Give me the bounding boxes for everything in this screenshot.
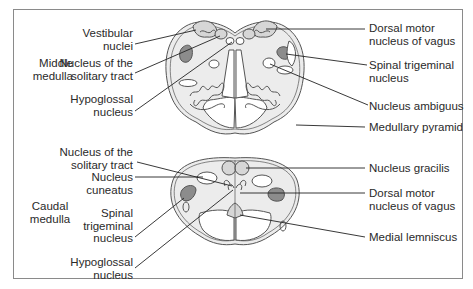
label-nucleus-gracilis: Nucleus gracilis — [369, 162, 450, 175]
nucleus-cuneatus-right — [252, 175, 272, 187]
label-nucleus-ambiguus: Nucleus ambiguus — [369, 100, 464, 113]
label-vestibular-nuclei: Vestibular nuclei — [82, 27, 133, 52]
dorsal-motor-nucleus-vagus-caudal-right — [268, 188, 284, 201]
middle-medulla-outline — [166, 22, 304, 134]
label-hypoglossal-nucleus-caudal: Hypoglossal nucleus — [70, 256, 133, 281]
label-dorsal-motor-nucleus-vagus-caudal: Dorsal motor nucleus of vagus — [369, 187, 455, 212]
solitary-tract-nucleus-right — [243, 29, 255, 39]
label-nucleus-solitary-tract-middle: Nucleus of the solitary tract — [59, 57, 133, 82]
nucleus-gracilis-left — [222, 161, 236, 175]
label-dorsal-motor-nucleus-vagus-middle: Dorsal motor nucleus of vagus — [369, 22, 455, 47]
label-hypoglossal-nucleus-middle: Hypoglossal nucleus — [70, 93, 133, 118]
caudal-medulla-section — [171, 158, 299, 245]
label-spinal-trigeminal-nucleus-middle: Spinal trigeminal nucleus — [369, 59, 454, 84]
label-medial-lemniscus: Medial lemniscus — [369, 231, 457, 244]
middle-medulla-section — [166, 21, 304, 134]
nucleus-ambiguus-left — [209, 60, 219, 68]
nucleus-ambiguus-right — [263, 58, 275, 68]
hypoglossal-nucleus-right — [236, 38, 244, 45]
label-spinal-trigeminal-nucleus-caudal: Spinal trigeminal nucleus — [83, 207, 133, 245]
label-nucleus-solitary-tract-caudal: Nucleus of the solitary tract — [59, 146, 133, 171]
label-medullary-pyramid: Medullary pyramid — [369, 121, 463, 134]
section-title-caudal-medulla: Caudal medulla — [25, 200, 75, 225]
label-nucleus-cuneatus: Nucleus cuneatus — [86, 171, 133, 196]
